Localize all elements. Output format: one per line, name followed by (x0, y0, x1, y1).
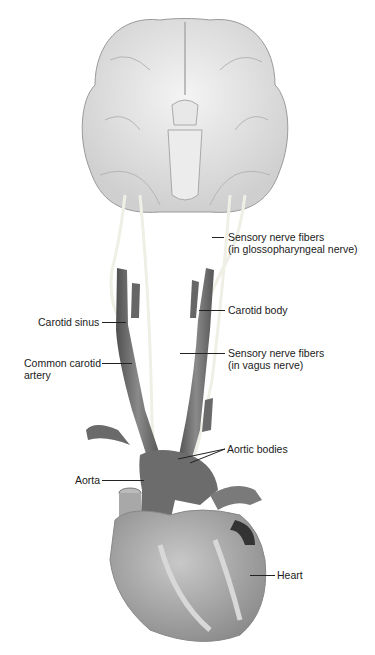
leader-sensory-glosso (212, 237, 224, 238)
label-carotid-body: Carotid body (228, 304, 288, 316)
right-carotid-artery (178, 268, 214, 465)
leader-common-carotid (102, 363, 132, 364)
label-carotid-sinus: Carotid sinus (38, 316, 99, 328)
label-aorta: Aorta (75, 474, 100, 486)
brain (82, 19, 288, 213)
label-sensory-vagus: Sensory nerve fibers (in vagus nerve) (228, 347, 324, 371)
label-heart: Heart (277, 569, 303, 581)
leader-carotid-body (199, 310, 225, 311)
leader-sensory-vagus (180, 353, 225, 354)
heart (110, 510, 266, 641)
label-common-carotid-artery: Common carotid artery (24, 357, 101, 381)
leader-carotid-sinus (102, 322, 126, 323)
label-sensory-glossopharyngeal: Sensory nerve fibers (in glossopharyngea… (228, 231, 358, 255)
leader-aorta (102, 480, 144, 481)
label-aortic-bodies: Aortic bodies (227, 443, 288, 455)
leader-heart (250, 575, 275, 576)
